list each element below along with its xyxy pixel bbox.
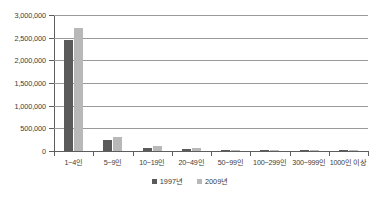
legend-label: 1997년 [160,176,183,186]
y-axis-tick-label: 0 [42,147,46,156]
legend-swatch-icon [197,179,202,184]
x-axis-tick [250,151,251,156]
plot-area [54,15,368,151]
x-axis-tick [93,151,94,156]
x-axis-tick [133,151,134,156]
gridline [54,60,368,61]
x-axis-category-label: 20~49인 [178,157,204,167]
x-axis-category-label: 1~4인 [64,157,82,167]
bar-chart: 0500,0001,000,0001,500,0002,000,0002,500… [0,0,380,201]
y-axis-tick-label: 1,500,000 [14,79,46,88]
legend-item[interactable]: 2009년 [197,176,228,186]
x-axis-category-label: 5~9인 [104,157,122,167]
gridline [54,15,368,16]
bar-series-2009 [74,28,83,151]
gridline [54,83,368,84]
x-axis-tick [211,151,212,156]
x-axis-category-label: 10~19인 [139,157,165,167]
x-axis-tick [329,151,330,156]
x-axis-tick [290,151,291,156]
gridline [54,106,368,107]
bar-series-1997 [64,40,73,151]
x-axis-category-label: 1000인 이상 [330,157,367,167]
x-axis-tick [172,151,173,156]
gridline [54,38,368,39]
y-axis-tick-label: 2,000,000 [14,56,46,65]
y-axis-tick-label: 500,000 [20,124,46,133]
legend-label: 2009년 [205,176,228,186]
bar-series-2009 [113,137,122,152]
x-axis-tick [54,151,55,156]
bar-series-1997 [103,140,112,151]
legend-swatch-icon [152,179,157,184]
x-axis-category-label: 300~999인 [292,157,326,167]
y-axis-tick-label: 1,000,000 [14,101,46,110]
x-axis-category-label: 100~299인 [253,157,287,167]
y-axis-tick-label: 3,000,000 [14,11,46,20]
legend-item[interactable]: 1997년 [152,176,183,186]
gridline [54,128,368,129]
y-axis-tick-label: 2,500,000 [14,33,46,42]
x-axis-category-label: 50~99인 [218,157,244,167]
chart-legend: 1997년2009년 [0,176,380,186]
x-axis-tick [368,151,369,156]
